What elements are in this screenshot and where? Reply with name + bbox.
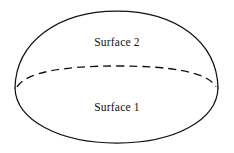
dome-figure: Surface 2 Surface 1 [0,0,234,153]
surface-1-label: Surface 1 [94,101,140,113]
figure-background [0,0,234,153]
surface-2-label: Surface 2 [94,36,140,48]
dome-diagram-svg: Surface 2 Surface 1 [0,0,234,153]
